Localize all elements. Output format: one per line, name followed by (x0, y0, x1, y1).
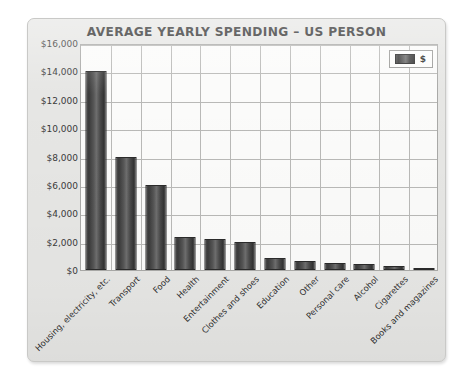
bar-slot (350, 45, 380, 270)
x-tick-label: Alcohol (352, 274, 381, 303)
y-tick-label: $0 (30, 266, 78, 276)
bar-slot (200, 45, 230, 270)
x-tick-label: Transport (107, 274, 142, 309)
y-tick-label: $4,000 (30, 209, 78, 219)
bar-slot (320, 45, 350, 270)
chart-page: AVERAGE YEARLY SPENDING – US PERSON $16,… (0, 0, 469, 380)
bar-slot (141, 45, 171, 270)
bar[interactable] (354, 264, 375, 270)
y-tick-label: $2,000 (30, 238, 78, 248)
y-tick-label: $12,000 (30, 96, 78, 106)
bar-series (81, 45, 437, 270)
bar-slot (260, 45, 290, 270)
bar[interactable] (414, 268, 435, 270)
bar[interactable] (294, 261, 315, 270)
bar[interactable] (264, 258, 285, 270)
x-axis-tick-labels: Housing, electricity, etc.TransportFoodH… (80, 272, 438, 360)
legend[interactable]: $ (389, 50, 433, 68)
bar-slot (290, 45, 320, 270)
bar[interactable] (205, 239, 226, 270)
legend-label-dollar: $ (420, 54, 426, 64)
bar-slot (230, 45, 260, 270)
x-tick-label: Health (175, 274, 202, 301)
bar-slot (81, 45, 111, 270)
x-tick-label: Clothes and shoes (200, 274, 261, 335)
x-tick-label: Other (297, 274, 321, 298)
bar-slot (379, 45, 409, 270)
y-tick-label: $6,000 (30, 181, 78, 191)
y-tick-label: $10,000 (30, 124, 78, 134)
y-tick-label: $14,000 (30, 67, 78, 77)
bar[interactable] (235, 242, 256, 270)
chart-title: AVERAGE YEARLY SPENDING – US PERSON (28, 25, 445, 39)
bar[interactable] (324, 263, 345, 270)
plot-area: $ (80, 44, 438, 271)
y-tick-label: $16,000 (30, 39, 78, 49)
bar[interactable] (145, 185, 166, 270)
bar[interactable] (384, 266, 405, 270)
bar[interactable] (175, 237, 196, 270)
x-tick-label: Housing, electricity, etc. (33, 274, 112, 353)
y-axis-tick-labels: $16,000$14,000$12,000$10,000$8,000$6,000… (28, 44, 78, 271)
legend-swatch-dollar (395, 54, 415, 64)
bar-slot (111, 45, 141, 270)
chart-panel: AVERAGE YEARLY SPENDING – US PERSON $16,… (27, 18, 446, 362)
bar[interactable] (115, 157, 136, 271)
bar[interactable] (85, 71, 106, 270)
y-tick-label: $8,000 (30, 153, 78, 163)
bar-slot (409, 45, 439, 270)
bar-slot (171, 45, 201, 270)
x-tick-label: Food (150, 274, 171, 295)
